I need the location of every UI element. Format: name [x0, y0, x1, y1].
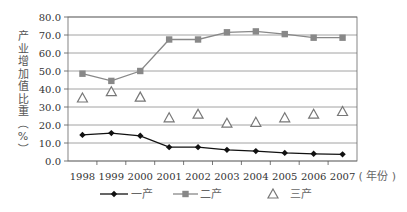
x-axis-unit-label: ( 年份 ): [359, 169, 397, 183]
triangle-marker: [309, 109, 319, 118]
series-line: [82, 31, 342, 81]
triangle-marker: [164, 113, 174, 122]
triangle-marker: [280, 113, 290, 122]
y-axis-ticks: 0.010.020.030.040.050.060.070.080.0: [39, 12, 61, 167]
y-tick-label: 30.0: [39, 102, 61, 113]
x-tick-label: 2005: [272, 171, 297, 182]
square-marker: [182, 191, 188, 197]
triangle-marker: [338, 107, 348, 116]
series-square: [79, 28, 346, 84]
diamond-marker: [282, 150, 288, 156]
legend-label: 一产: [131, 187, 153, 201]
x-tick-label: 2001: [156, 171, 181, 182]
square-marker: [310, 35, 316, 41]
y-tick-label: 80.0: [39, 12, 61, 23]
diamond-marker: [253, 148, 259, 154]
y-tick-label: 10.0: [39, 138, 61, 149]
x-tick-label: 2007: [330, 171, 355, 182]
square-marker: [166, 36, 172, 42]
triangle-marker: [268, 189, 278, 198]
x-tick-label: 2006: [301, 171, 326, 182]
square-marker: [195, 36, 201, 42]
y-axis-label-char: 产: [18, 29, 29, 43]
y-tick-label: 60.0: [39, 48, 61, 59]
y-axis-label-char: 加: [18, 68, 29, 81]
diamond-marker: [310, 151, 316, 157]
y-tick-label: 50.0: [39, 66, 61, 77]
series-line: [82, 133, 342, 154]
diamond-marker: [195, 144, 201, 150]
y-axis-label-char: （: [16, 118, 29, 129]
y-axis-label-char: 重: [18, 104, 29, 118]
square-marker: [282, 31, 288, 37]
square-marker: [108, 78, 114, 84]
y-tick-label: 20.0: [39, 120, 61, 131]
x-tick-label: 2002: [185, 171, 210, 182]
triangle-marker: [77, 93, 87, 102]
triangle-marker: [251, 117, 261, 126]
diamond-marker: [111, 191, 117, 197]
triangle-marker: [106, 87, 116, 96]
line-chart: 产业增加值比重（%） 0.010.020.030.040.050.060.070…: [0, 0, 407, 212]
legend-item: 一产: [100, 187, 153, 201]
y-axis-label-char: 比: [18, 93, 29, 106]
legend-label: 三产: [290, 187, 312, 201]
square-marker: [79, 71, 85, 77]
x-tick-label: 1998: [70, 171, 95, 182]
diamond-marker: [166, 144, 172, 150]
y-axis-label-char: 值: [18, 80, 29, 93]
triangle-marker: [222, 118, 232, 127]
series-layer: [77, 28, 347, 157]
series-diamond: [79, 130, 346, 158]
diamond-marker: [137, 133, 143, 139]
y-tick-label: 0.0: [45, 156, 61, 167]
x-tick-label: 1999: [99, 171, 124, 182]
y-axis-label: 产业增加值比重（%）: [16, 29, 29, 154]
diamond-marker: [108, 130, 114, 136]
triangle-marker: [193, 109, 203, 118]
square-marker: [224, 29, 230, 35]
y-tick-label: 40.0: [39, 84, 61, 95]
x-tick-label: 2000: [128, 171, 153, 182]
x-axis-ticks: 1998199920002001200220032004200520062007…: [70, 169, 396, 183]
x-tick-label: 2004: [243, 171, 268, 182]
legend-label: 二产: [200, 187, 222, 201]
x-tick-label: 2003: [214, 171, 239, 182]
square-marker: [339, 35, 345, 41]
legend: 一产二产三产: [100, 187, 312, 201]
y-axis-label-char: 业: [18, 43, 29, 56]
y-tick-label: 70.0: [39, 30, 61, 41]
y-axis-label-char: 增: [18, 54, 29, 68]
square-marker: [137, 68, 143, 74]
legend-item: 三产: [268, 187, 312, 201]
diamond-marker: [79, 132, 85, 138]
square-marker: [253, 28, 259, 34]
diamond-marker: [339, 151, 345, 157]
y-axis-label-char: ）: [16, 143, 29, 154]
legend-item: 二产: [173, 187, 222, 201]
triangle-marker: [135, 92, 145, 101]
diamond-marker: [224, 147, 230, 153]
y-axis-label-char: %: [18, 130, 28, 143]
